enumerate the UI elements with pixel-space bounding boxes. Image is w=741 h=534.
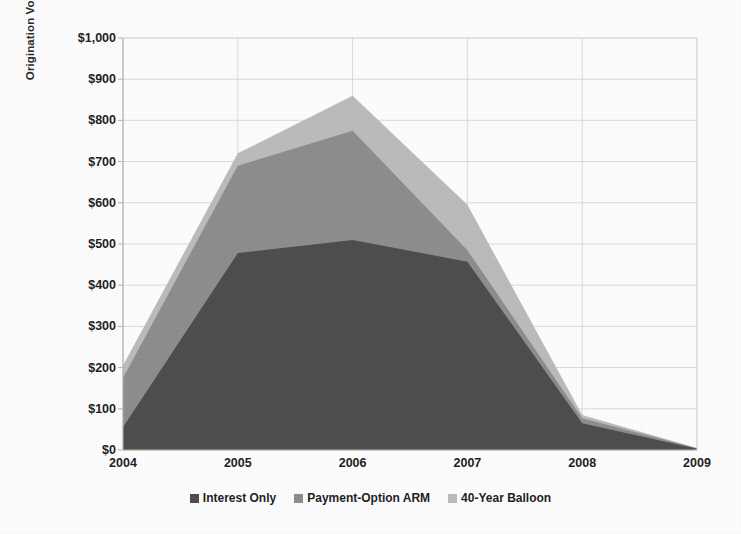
x-axis-tick-label: 2004 — [109, 456, 137, 470]
area-series-group — [123, 96, 697, 450]
chart-legend: Interest OnlyPayment-Option ARM40-Year B… — [0, 491, 741, 505]
x-axis-tick-label: 2009 — [683, 456, 711, 470]
legend-swatch-icon — [294, 494, 303, 503]
legend-item-label: Interest Only — [203, 491, 276, 505]
legend-swatch-icon — [190, 494, 199, 503]
legend-item[interactable]: Payment-Option ARM — [294, 491, 430, 505]
legend-item-label: Payment-Option ARM — [307, 491, 430, 505]
legend-item-label: 40-Year Balloon — [461, 491, 551, 505]
legend-item[interactable]: 40-Year Balloon — [448, 491, 551, 505]
plot-area — [0, 0, 741, 534]
legend-item[interactable]: Interest Only — [190, 491, 276, 505]
area-chart: Origination Volume ($ Billions) $0$100$2… — [0, 0, 741, 534]
x-axis-tick-label: 2005 — [224, 456, 252, 470]
legend-swatch-icon — [448, 494, 457, 503]
x-axis-tick-label: 2007 — [453, 456, 481, 470]
x-axis-tick-label: 2006 — [339, 456, 367, 470]
x-axis-tick-label: 2008 — [568, 456, 596, 470]
